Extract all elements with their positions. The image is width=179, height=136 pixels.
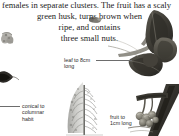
- small-fruit-photograph-partial: [86, 13, 104, 25]
- cone-photograph-partial: [0, 66, 20, 88]
- leader-line-leaf: [96, 60, 132, 61]
- annotation-tree-habit: conical to columnar habit: [22, 103, 45, 122]
- tree-habit-illustration: [63, 81, 107, 136]
- annotation-fruit-size: fruit to 1cm long: [110, 114, 132, 127]
- leader-line-habit: [0, 106, 20, 107]
- annotation-leaf-size: leaf to 8cm long: [64, 57, 90, 70]
- fruit-cluster-photograph: [128, 84, 179, 136]
- leaf-branch-photograph: [108, 8, 179, 86]
- field-guide-page: females in separate clusters. The fruit …: [0, 0, 179, 136]
- catkin-photograph-partial: [0, 30, 18, 48]
